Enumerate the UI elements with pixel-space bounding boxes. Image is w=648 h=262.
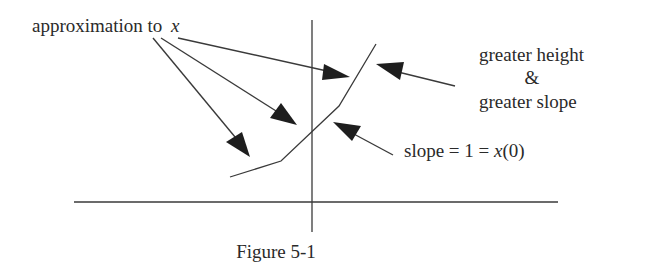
- slope-label: slope = 1 = x(0): [404, 140, 525, 162]
- ampersand-label: &: [525, 67, 540, 88]
- figure-canvas: approximation to x greater height & grea…: [0, 0, 648, 262]
- figure-caption: Figure 5-1: [236, 241, 316, 262]
- arrow-to-middle-segment: [161, 38, 284, 116]
- greater-height-label: greater height: [479, 44, 585, 65]
- greater-height-arrow: [376, 62, 455, 86]
- slope-arrow: [333, 122, 393, 155]
- approximation-curve: [230, 44, 376, 177]
- approximation-label: approximation to x: [32, 15, 180, 36]
- greater-slope-label: greater slope: [479, 91, 577, 112]
- arrowhead-icon: [376, 62, 404, 80]
- arrow-to-lower-segment: [153, 38, 240, 143]
- arrow-shaft: [352, 133, 393, 155]
- approximation-arrows: [153, 38, 350, 157]
- arrowhead-icon: [226, 132, 250, 157]
- arrow-shaft: [398, 72, 455, 86]
- arrowhead-icon: [333, 122, 361, 141]
- arrowhead-icon: [270, 103, 297, 125]
- arrowhead-icon: [322, 64, 350, 80]
